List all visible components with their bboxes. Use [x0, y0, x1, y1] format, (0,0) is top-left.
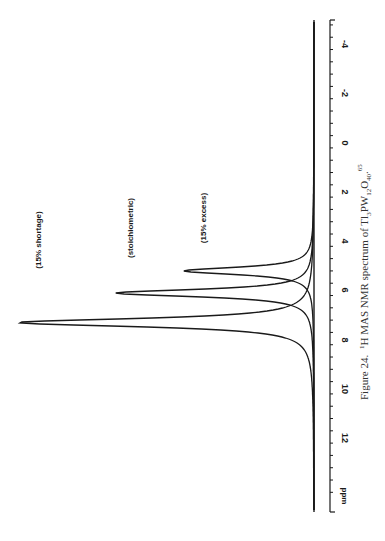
tick-label: -2	[340, 89, 350, 97]
tick-label: 12	[340, 433, 350, 443]
tick-label: 0	[340, 140, 350, 145]
series-label-shortage: (15% shortage)	[34, 211, 43, 269]
axis-unit-label: ppm	[340, 488, 349, 505]
tick-label: 4	[340, 238, 350, 243]
spectrum-curve-stoichiometric	[116, 22, 314, 510]
tick-label: 6	[340, 287, 350, 292]
spectra	[20, 22, 314, 510]
spectrum-curve-shortage	[20, 22, 314, 510]
tick-labels: -4 -2 0 2 4 6 8 10 12 ppm	[340, 40, 350, 504]
tick-label: 2	[340, 189, 350, 194]
nmr-figure: -4 -2 0 2 4 6 8 10 12 ppm (15% shortage)…	[0, 0, 385, 541]
spectrum-curve-excess	[184, 22, 314, 510]
tick-label: 10	[340, 384, 350, 394]
nmr-spectrum-plot: -4 -2 0 2 4 6 8 10 12 ppm (15% shortage)…	[0, 0, 385, 541]
tick-label: 8	[340, 337, 350, 342]
tick-label: -4	[340, 40, 350, 48]
ppm-axis	[330, 20, 335, 512]
series-label-excess: (15% excess)	[199, 193, 208, 244]
figure-caption: Figure 24. 1H MAS NMR spectrum of Tl3PW1…	[356, 164, 373, 400]
series-label-stoichiometric: (stoichiometric)	[126, 198, 135, 258]
